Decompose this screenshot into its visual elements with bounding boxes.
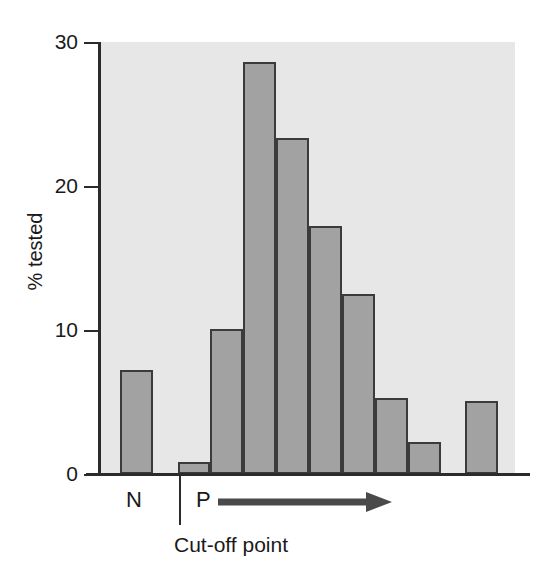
positive-region-label: P (196, 489, 211, 511)
bar-7 (375, 398, 408, 474)
y-axis-tick-label: 0 (66, 463, 78, 484)
y-axis-tick-mark (84, 330, 98, 332)
bars-layer (100, 42, 515, 474)
y-axis-tick-label: 10 (55, 319, 78, 340)
cutoff-leader-line (179, 476, 181, 525)
increasing-titre-arrow-icon (218, 490, 393, 514)
x-axis-line (86, 473, 530, 476)
cutoff-point-label: Cut-off point (174, 534, 288, 555)
y-axis-tick-mark (84, 42, 98, 44)
y-axis-tick-label: 30 (55, 31, 78, 52)
bar-9 (465, 401, 498, 474)
y-axis-title: % tested (24, 172, 47, 332)
histogram-figure: % tested 3020100 N P Cut-off point (0, 0, 536, 578)
negative-region-label: N (126, 489, 142, 511)
bar-4 (276, 138, 309, 474)
bar-8 (408, 442, 441, 474)
y-axis-tick-mark (84, 186, 98, 188)
bar-2 (210, 329, 243, 474)
y-axis-line (98, 42, 101, 476)
bar-negative (120, 370, 153, 474)
bar-5 (309, 226, 342, 474)
bar-3 (243, 62, 276, 474)
y-axis-tick-label: 20 (55, 175, 78, 196)
bar-6 (342, 294, 375, 474)
plot-area (100, 42, 515, 474)
